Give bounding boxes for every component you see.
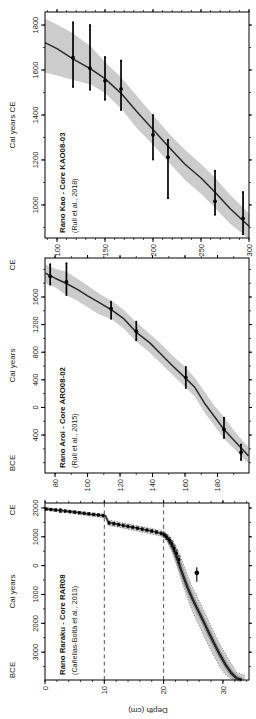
- age-tick-label: 3000: [31, 644, 40, 661]
- era-label-bce: BCE: [8, 662, 17, 678]
- date-marker-square: [141, 528, 144, 531]
- date-marker-square: [102, 514, 105, 517]
- date-error-cap: [49, 263, 51, 265]
- depth-tick-label: 180: [213, 479, 222, 492]
- panel-citation: (Cañellas-Boltà et al., 2013): [70, 586, 79, 675]
- date-marker-dot: [222, 428, 226, 432]
- date-marker-square: [54, 509, 57, 512]
- date-marker-square: [178, 558, 181, 561]
- date-marker-square: [127, 525, 130, 528]
- date-error-cap: [65, 262, 67, 264]
- age-axis-title: Cal years: [8, 575, 17, 609]
- date-error-cap: [135, 321, 137, 323]
- depth-tick-label: 20: [159, 686, 168, 694]
- date-error-cap: [167, 197, 169, 199]
- date-error-cap: [72, 21, 74, 23]
- date-marker-dot: [119, 87, 123, 91]
- date-marker-square: [97, 514, 100, 517]
- outlier-marker: [195, 571, 200, 576]
- depth-tick-label: 100: [53, 244, 62, 257]
- panel-citation: (Rull et al., 2018): [70, 178, 79, 233]
- age-tick-label: 1200: [31, 152, 40, 169]
- date-marker-dot: [103, 79, 107, 83]
- age-tick-label: 400: [31, 374, 40, 387]
- date-marker-square: [50, 508, 53, 511]
- age-tick-label: 0: [31, 405, 40, 409]
- depth-tick-label: 10: [100, 686, 109, 694]
- age-tick-label: 800: [31, 346, 40, 359]
- date-marker-dot: [48, 274, 52, 278]
- age-tick-label: 1000: [31, 528, 40, 545]
- date-marker-square: [122, 524, 125, 527]
- age-axis-title: Cal years CE: [8, 101, 17, 148]
- depth-axis-label: Depth (cm): [128, 706, 168, 715]
- depth-tick-label: 80: [51, 479, 60, 487]
- depth-tick-label: 100: [83, 479, 92, 492]
- date-error-cap: [110, 318, 112, 320]
- date-marker-square: [112, 522, 115, 525]
- date-marker-square: [171, 542, 174, 545]
- date-marker-square: [78, 511, 81, 514]
- date-marker-square: [64, 510, 67, 513]
- date-marker-dot: [184, 376, 188, 380]
- date-marker-square: [146, 529, 149, 532]
- age-tick-label: 1800: [31, 17, 40, 34]
- date-error-cap: [110, 301, 112, 303]
- date-error-cap: [167, 139, 169, 141]
- date-marker-square: [108, 522, 111, 525]
- age-tick-label: 1000: [31, 197, 40, 214]
- age-tick-label: 1400: [31, 107, 40, 124]
- date-marker-dot: [134, 329, 138, 333]
- age-tick-label: 1200: [31, 316, 40, 333]
- date-marker-dot: [88, 66, 92, 70]
- date-error-cap: [240, 444, 242, 446]
- era-label-ce: CE: [8, 259, 17, 270]
- date-marker-dot: [71, 56, 75, 60]
- date-error-cap: [223, 437, 225, 439]
- depth-tick-label: 250: [197, 244, 206, 257]
- figure-rotated: Depth (cm)200010000100020003000Cal years…: [0, 0, 256, 719]
- date-error-cap: [72, 86, 74, 88]
- date-error-cap: [214, 170, 216, 172]
- date-error-cap: [242, 191, 244, 193]
- depth-tick-label: 30: [219, 686, 228, 694]
- age-axis-title: Cal years: [8, 349, 17, 383]
- age-tick-label: 1600: [31, 62, 40, 79]
- date-marker-square: [160, 532, 163, 535]
- era-label-bce: BCE: [8, 455, 17, 471]
- date-error-cap: [152, 159, 154, 161]
- panel-citation: (Rull et al., 2015): [70, 413, 79, 468]
- date-marker-square: [173, 547, 176, 550]
- date-marker-square: [131, 526, 134, 529]
- date-marker-square: [175, 552, 178, 555]
- date-marker-dot: [109, 307, 113, 311]
- panel-title: Rano Kao - Core KAO08-03: [58, 132, 67, 233]
- depth-tick-label: 300: [245, 244, 254, 257]
- depth-tick-label: 0: [41, 686, 50, 690]
- date-error-cap: [89, 89, 91, 91]
- age-tick-label: 2000: [31, 615, 40, 632]
- screenshot-root: Depth (cm)200010000100020003000Cal years…: [0, 0, 256, 719]
- date-error-cap: [120, 60, 122, 62]
- date-marker-square: [73, 511, 76, 514]
- date-marker-square: [155, 531, 158, 534]
- date-error-cap: [104, 99, 106, 101]
- date-error-cap: [242, 233, 244, 235]
- date-error-cap: [185, 366, 187, 368]
- date-marker-square: [163, 534, 166, 537]
- depth-tick-label: 150: [101, 244, 110, 257]
- date-marker-square: [59, 509, 62, 512]
- date-marker-square: [88, 513, 91, 516]
- age-depth-figure: Depth (cm)200010000100020003000Cal years…: [0, 0, 256, 719]
- date-error-cap: [240, 459, 242, 461]
- depth-tick-label: 160: [181, 479, 190, 492]
- date-error-cap: [135, 339, 137, 341]
- date-marker-dot: [65, 280, 69, 284]
- date-error-cap: [65, 294, 67, 296]
- era-label-ce: CE: [8, 504, 17, 515]
- panel-title: Rano Aroi - Core ARO08-02: [58, 367, 67, 468]
- age-tick-label: 2000: [31, 500, 40, 517]
- date-marker-dot: [151, 133, 155, 137]
- date-marker-dot: [239, 450, 243, 454]
- panel-title: Rano Raraku - Core RAR08: [58, 574, 67, 675]
